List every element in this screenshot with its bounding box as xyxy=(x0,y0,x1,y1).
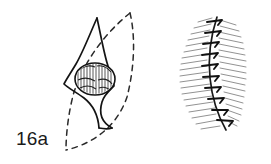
hatched-nodule xyxy=(75,62,115,96)
figure-16b-artwork xyxy=(160,0,271,164)
figure-16a-caption: 16a xyxy=(16,129,48,148)
figure-16b-panel: 16b xyxy=(160,0,271,164)
figure-16a-panel: 16a xyxy=(0,0,160,164)
figure-plate: 16a xyxy=(0,0,271,164)
stitch-marks xyxy=(202,20,233,126)
